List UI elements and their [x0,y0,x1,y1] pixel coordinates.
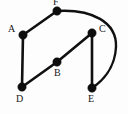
vertex-c [88,29,96,37]
edge-a-d [22,35,23,87]
vertex-b [53,58,61,66]
vertex-label-f: F [53,0,59,7]
vertex-f [53,7,61,15]
vertex-label-e: E [88,94,94,104]
edge-b-c [57,33,92,62]
vertex-group [18,7,96,92]
edge-d-b [22,62,57,87]
vertex-label-a: A [8,24,15,34]
edge-a-f [23,11,57,35]
vertex-a [19,31,27,39]
vertex-e [88,84,96,92]
vertex-d [18,83,26,91]
graph-diagram: A B C D E F [0,0,128,114]
edge-f-e-curved [57,11,116,88]
vertex-label-c: C [99,24,106,34]
vertex-label-d: D [16,94,23,104]
vertex-label-b: B [54,68,61,78]
